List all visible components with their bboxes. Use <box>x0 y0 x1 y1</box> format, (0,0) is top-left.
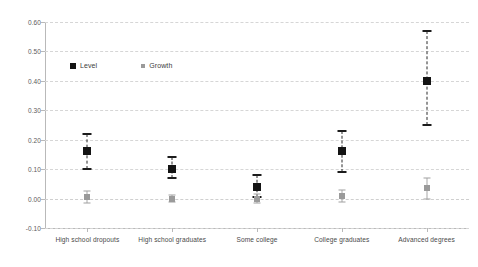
x-axis-tick-label: High school dropouts <box>55 236 119 243</box>
x-axis-tick-label: High school graduates <box>138 236 206 243</box>
y-axis: 0.600.500.400.300.200.100.00-0.10 <box>0 22 41 228</box>
legend-item-level[interactable]: Level <box>70 62 97 69</box>
y-axis-tick-label: 0.60 <box>28 19 41 26</box>
y-axis-tick-label: 0.20 <box>28 136 41 143</box>
level-data-marker <box>168 165 176 173</box>
gridline <box>45 81 469 82</box>
error-bar-cap <box>83 133 92 135</box>
error-bar-cap <box>254 194 261 195</box>
error-bar-cap <box>83 168 92 170</box>
error-bar-cap <box>338 201 345 202</box>
growth-data-marker <box>84 194 90 200</box>
level-data-marker <box>423 77 431 85</box>
growth-data-marker <box>424 185 430 191</box>
plot-area <box>45 22 469 228</box>
x-axis-tick-mark <box>172 228 173 232</box>
y-axis-tick-label: -0.10 <box>26 225 41 232</box>
chart-legend: Level Growth <box>70 62 172 69</box>
x-axis-tick-label: Some college <box>236 236 277 243</box>
growth-data-marker <box>169 196 175 202</box>
y-axis-tick-label: 0.30 <box>28 107 41 114</box>
y-axis-tick-label: 0.40 <box>28 77 41 84</box>
error-bar-cap <box>337 171 346 173</box>
y-axis-tick-label: 0.00 <box>28 195 41 202</box>
error-bar-cap <box>168 156 177 158</box>
level-data-marker <box>338 147 346 155</box>
legend-item-growth[interactable]: Growth <box>141 62 172 69</box>
x-axis-tick-label: Advanced degrees <box>398 236 455 243</box>
error-bar-cap <box>254 202 261 203</box>
gridline <box>45 169 469 170</box>
x-axis-tick-mark <box>257 228 258 232</box>
error-bar-cap <box>422 124 431 126</box>
gridline <box>45 51 469 52</box>
gridline <box>45 110 469 111</box>
error-bar-cap <box>337 130 346 132</box>
x-axis-tick-mark <box>87 228 88 232</box>
legend-label-level: Level <box>80 62 97 69</box>
error-bar-cap <box>84 191 91 192</box>
y-axis-tick-label: 0.10 <box>28 166 41 173</box>
gridline <box>45 140 469 141</box>
growth-marker-icon <box>141 64 145 68</box>
legend-label-growth: Growth <box>149 62 172 69</box>
y-axis-tick-label: 0.50 <box>28 48 41 55</box>
growth-data-marker <box>339 193 345 199</box>
chart-container: 0.600.500.400.300.200.100.00-0.10 High s… <box>0 0 478 267</box>
error-bar-cap <box>422 30 431 32</box>
error-bar-cap <box>423 198 430 199</box>
x-axis-tick-mark <box>342 228 343 232</box>
error-bar-cap <box>338 189 345 190</box>
error-bar-cap <box>423 177 430 178</box>
level-marker-icon <box>70 63 76 69</box>
gridline <box>45 22 469 23</box>
level-data-marker <box>253 183 261 191</box>
error-bar-cap <box>84 202 91 203</box>
x-axis-tick-mark <box>427 228 428 232</box>
x-axis-tick-label: College graduates <box>314 236 369 243</box>
level-data-marker <box>83 147 91 155</box>
error-bar-cap <box>253 174 262 176</box>
growth-data-marker <box>254 196 260 202</box>
error-bar-cap <box>168 177 177 179</box>
